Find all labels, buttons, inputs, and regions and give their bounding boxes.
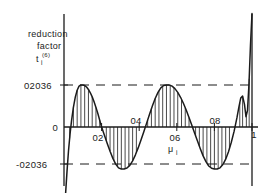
x-tick-label-1: 04	[130, 115, 141, 126]
y-tick-label-positive: 02036	[24, 80, 52, 91]
reduction-factor-chart: reduction factor t i (6) 02036 0 -02036 …	[0, 0, 269, 193]
x-tick-label-2: 06	[169, 132, 180, 143]
y-axis-label-line2: factor	[37, 41, 61, 51]
x-tick-label-0: 02	[92, 132, 103, 143]
x-axis-label-symbol: μ	[168, 144, 174, 154]
x-tick-label-3: 08	[209, 115, 220, 126]
x-tick-label-4: 1	[251, 129, 257, 140]
y-axis-label-symbol: t	[36, 54, 39, 64]
y-tick-label-negative: -02036	[16, 159, 47, 170]
y-axis-label-symbol-subscript: i	[41, 59, 43, 66]
x-axis-label-symbol-subscript: i	[176, 149, 178, 156]
y-tick-label-zero: 0	[52, 122, 58, 133]
y-axis-label-line1: reduction	[28, 29, 68, 39]
y-axis-label-symbol-superscript: (6)	[42, 52, 50, 58]
